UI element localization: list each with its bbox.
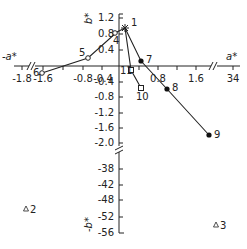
data-lines [42,28,209,135]
y-tick-labels: 1.2 0.8 0.4 -0.4 -0.8 -1.2 -1.6 -2.0 -38… [94,12,114,238]
svg-text:6: 6 [33,67,39,78]
svg-text:0.4: 0.4 [98,44,114,55]
point-8-filled-circle-icon [164,86,169,91]
svg-text:-0.8: -0.8 [94,91,114,102]
color-plot: -a* a* b* -b* -1.8 -1.6 -0.8 -0.4 0.8 1.… [0,0,247,249]
point-6-open-circle-icon [40,71,45,76]
svg-text:-1.6: -1.6 [94,122,114,133]
svg-text:-1.2: -1.2 [94,107,114,118]
neg-a-label: -a* [2,51,17,62]
neg-b-label: -b* [83,217,94,232]
svg-text:8: 8 [172,82,178,93]
svg-text:-42: -42 [98,179,114,190]
svg-text:-52: -52 [98,211,114,222]
svg-text:3: 3 [220,220,226,231]
svg-text:-1.8: -1.8 [12,73,32,84]
point-3-triangle-icon [214,222,219,227]
svg-text:-56: -56 [98,227,114,238]
svg-text:-38: -38 [98,163,114,174]
point-9-filled-circle-icon [206,132,211,137]
svg-text:-0.8: -0.8 [73,73,93,84]
pos-a-label: a* [226,51,237,62]
pos-b-label: b* [83,13,94,24]
point-2-triangle-icon [24,206,29,211]
point-10-square-icon [139,86,144,91]
svg-text:34: 34 [227,73,240,84]
svg-text:-48: -48 [98,194,114,205]
svg-text:9: 9 [214,129,220,140]
svg-text:-2.0: -2.0 [94,137,114,148]
svg-text:-0.4: -0.4 [94,76,114,87]
svg-text:2: 2 [30,204,36,215]
point-7-filled-circle-icon [138,58,143,63]
svg-text:11: 11 [120,65,133,76]
y-axis [115,14,124,233]
svg-text:1.2: 1.2 [98,12,114,23]
svg-text:4: 4 [113,35,119,46]
svg-text:1: 1 [131,17,137,28]
point-5-open-circle-icon [86,56,91,61]
svg-text:10: 10 [136,91,149,102]
svg-text:7: 7 [146,54,152,65]
svg-text:5: 5 [79,47,85,58]
svg-text:1.6: 1.6 [188,73,204,84]
point-1-star-icon [121,24,129,32]
